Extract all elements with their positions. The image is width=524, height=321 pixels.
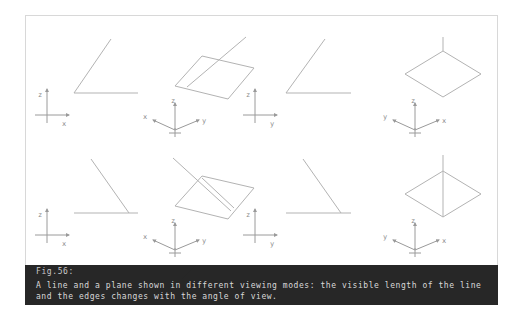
y-axis xyxy=(175,240,199,250)
panel-6-geometry xyxy=(173,158,254,219)
panel-6-z-label: z xyxy=(171,217,175,225)
panel-1-x-label: x xyxy=(62,120,66,128)
x-axis xyxy=(415,240,439,250)
panel-2-axis-gizmo xyxy=(153,103,199,137)
x-axis xyxy=(153,240,175,250)
parallelogram-plane xyxy=(175,56,254,99)
panel-6-axis-gizmo xyxy=(153,223,199,257)
panel-3-geometry xyxy=(286,39,351,93)
panel-2: z x y xyxy=(143,37,254,137)
panel-3: z y xyxy=(243,39,351,128)
panel-1-z-label: z xyxy=(38,91,42,99)
panel-8-z-label: z xyxy=(411,217,415,225)
panel-8-x-label: x xyxy=(442,237,446,245)
panels-diagram: z x z x y xyxy=(25,15,498,265)
panel-7: z y xyxy=(243,159,351,248)
figure-caption: A line and a plane shown in different vi… xyxy=(36,280,492,302)
panel-5-geometry xyxy=(74,159,138,213)
diagonal-line-down-right xyxy=(91,159,129,213)
panel-8-axis-gizmo xyxy=(393,223,439,257)
line-crossing-plane xyxy=(187,37,246,87)
panel-4-y-label: y xyxy=(383,113,387,121)
panel-4-z-label: z xyxy=(411,97,415,105)
panel-4-axis-gizmo xyxy=(393,103,439,137)
panel-7-geometry xyxy=(286,159,351,213)
figure-label: Fig.56: xyxy=(36,266,74,277)
line-through-plane xyxy=(173,158,231,211)
diagonal-line-up-right xyxy=(286,39,325,93)
panel-7-z-label: z xyxy=(246,211,250,219)
panel-3-y-label: y xyxy=(270,120,274,128)
figure-container: z x z x y xyxy=(0,0,524,321)
panel-6-x-label: x xyxy=(143,233,147,241)
panel-2-y-label: y xyxy=(202,117,206,125)
y-axis xyxy=(175,120,199,130)
panel-8-geometry xyxy=(405,155,481,217)
panel-7-y-label: y xyxy=(270,240,274,248)
panel-4-geometry xyxy=(405,37,481,97)
panel-6-y-label: y xyxy=(202,237,206,245)
panel-8-y-label: y xyxy=(383,233,387,241)
panel-2-geometry xyxy=(175,37,254,99)
y-axis xyxy=(393,120,415,130)
panel-2-x-label: x xyxy=(143,113,147,121)
diagonal-line-down-right xyxy=(303,159,341,213)
diamond-plane xyxy=(405,51,481,97)
panel-8: z y x xyxy=(383,155,481,257)
x-axis xyxy=(153,120,175,130)
panel-3-z-label: z xyxy=(246,91,250,99)
panel-5-x-label: x xyxy=(62,240,66,248)
diagonal-line-up-right xyxy=(74,39,111,93)
caption-tab-bevel-icon xyxy=(182,265,196,279)
panel-5: z x xyxy=(35,159,138,248)
panel-6: z x y xyxy=(143,158,254,257)
y-axis xyxy=(393,240,415,250)
panel-4-x-label: x xyxy=(442,117,446,125)
parallelogram-plane xyxy=(175,176,254,219)
panel-5-z-label: z xyxy=(38,211,42,219)
panel-4: z y x xyxy=(383,37,481,137)
panel-1: z x xyxy=(35,39,138,128)
panel-1-geometry xyxy=(74,39,138,93)
x-axis xyxy=(415,120,439,130)
panel-2-z-label: z xyxy=(171,97,175,105)
